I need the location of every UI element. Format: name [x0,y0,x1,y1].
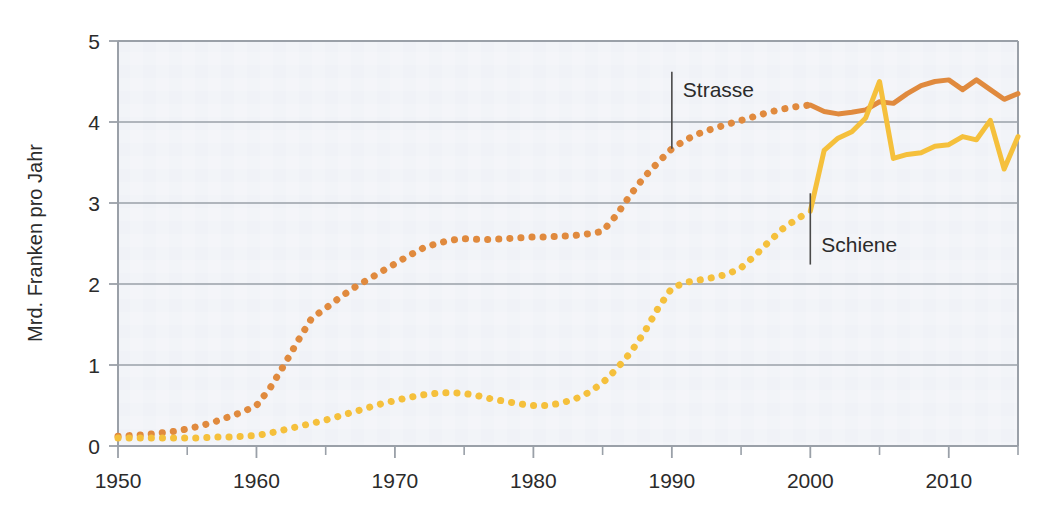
line-chart: 1950196019701980199020002010 012345 Mrd.… [0,0,1060,519]
x-axis-tick-label: 1990 [648,469,695,492]
y-axis-tick-label: 2 [88,273,100,296]
y-axis-title: Mrd. Franken pro Jahr [24,144,46,342]
y-axis-tick-label: 0 [88,435,100,458]
y-axis-tick-label: 4 [88,111,100,134]
y-axis-tick-label: 1 [88,354,100,377]
x-axis-tick-label: 1970 [372,469,419,492]
x-axis-tick-label: 2000 [787,469,834,492]
x-axis-tick-label: 2010 [925,469,972,492]
chart-container: 1950196019701980199020002010 012345 Mrd.… [0,0,1060,519]
annotation-label-schiene: Schiene [821,233,897,256]
y-axis-tick-label: 3 [88,192,100,215]
y-axis-tick-label: 5 [88,30,100,53]
x-axis-tick-label: 1950 [95,469,142,492]
x-axis-tick-label: 1960 [233,469,280,492]
x-axis-tick-label: 1980 [510,469,557,492]
annotation-label-strasse: Strasse [683,78,754,101]
